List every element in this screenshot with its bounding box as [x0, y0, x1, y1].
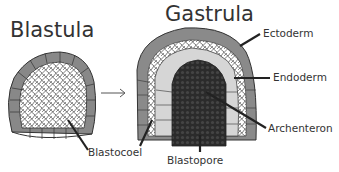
ectoderm-label: Ectoderm: [263, 27, 313, 39]
gastrula-embryo: [137, 28, 256, 146]
blastula-embryo: [8, 52, 96, 139]
transition-arrow: [101, 89, 125, 97]
blastocoel-label: Blastocoel: [88, 146, 142, 158]
gastrula-title: Gastrula: [165, 2, 254, 26]
blastula-title: Blastula: [10, 18, 94, 42]
archenteron-label: Archenteron: [268, 122, 333, 134]
endoderm-label: Endoderm: [273, 71, 327, 83]
blastopore-label: Blastopore: [167, 154, 223, 166]
